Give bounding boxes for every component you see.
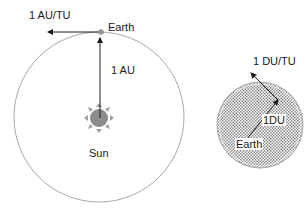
au-velocity-label: 1 AU/TU [29,9,71,21]
au-radius-label: 1 AU [111,64,135,76]
sun-icon [84,103,114,133]
du-radius-label: 1DU [262,114,286,126]
earth-body-circle [217,82,303,168]
earth-orbit-label: Earth [108,21,134,33]
earth-dot [99,30,104,35]
earth-center-label: Earth [235,138,263,150]
sun-label: Sun [89,147,109,159]
du-velocity-label: 1 DU/TU [253,55,296,67]
diagram-canvas [0,0,307,213]
